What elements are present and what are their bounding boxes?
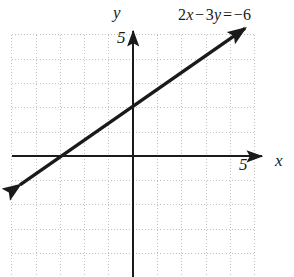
equation-minus: − — [195, 6, 204, 23]
equation-var-x: x — [186, 6, 193, 23]
equation-var-y: y — [214, 6, 221, 23]
x-axis-label: x — [275, 152, 283, 169]
equation-rhs: −6 — [234, 6, 251, 23]
equation-coef-x: 2 — [178, 6, 186, 23]
coordinate-plane — [0, 0, 294, 277]
equation-coef-y: 3 — [206, 6, 214, 23]
equation-equals: = — [223, 6, 232, 23]
y-tick-label-5: 5 — [117, 29, 126, 46]
y-axis-label: y — [113, 4, 121, 21]
graph-figure: y x 5 5 2x − 3y = −6 — [0, 0, 294, 277]
equation-annotation: 2x − 3y = −6 — [178, 7, 251, 23]
x-tick-label-5: 5 — [239, 156, 248, 173]
